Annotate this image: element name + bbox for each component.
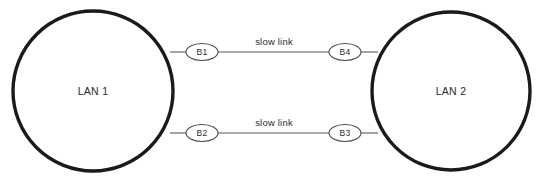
lan-2-label: LAN 2 [436,85,467,97]
bridge-b1-label: B1 [197,47,208,57]
bridge-b2-label: B2 [197,128,208,138]
slow-link-top-label: slow link [255,36,293,47]
bridge-b4-label: B4 [340,47,351,57]
bridge-b3-label: B3 [340,128,351,138]
slow-link-bottom-label: slow link [255,117,293,128]
lan-1-label: LAN 1 [78,85,109,97]
network-topology-diagram: LAN 1 LAN 2 B1 B4 B2 B3 slow link slow l… [0,0,543,187]
network-diagram-canvas: LAN 1 LAN 2 B1 B4 B2 B3 slow link slow l… [0,0,543,187]
